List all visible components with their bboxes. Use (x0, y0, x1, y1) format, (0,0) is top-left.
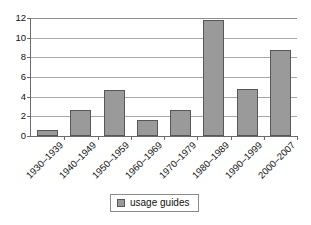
bar (237, 89, 258, 136)
plot-area: 024681012 (30, 18, 297, 137)
y-tick-mark (27, 136, 31, 137)
bar (37, 130, 58, 136)
y-tick-label: 2 (21, 112, 26, 122)
y-tick-label: 6 (21, 72, 26, 82)
x-axis-labels: 1930–19391940–19491950–19591960–19691970… (30, 140, 296, 188)
bar (137, 120, 158, 136)
bar (104, 90, 125, 136)
legend-label-usage-guides: usage guides (130, 198, 190, 208)
y-tick-label: 0 (21, 131, 26, 141)
bar (270, 50, 291, 136)
bar (203, 20, 224, 136)
legend-swatch-usage-guides (117, 199, 125, 207)
y-tick-label: 10 (15, 33, 26, 43)
bar (70, 110, 91, 136)
bar-chart: 024681012 1930–19391940–19491950–1959196… (0, 0, 311, 225)
legend: usage guides (110, 194, 199, 212)
x-tick-mark (297, 136, 298, 140)
y-tick-label: 4 (21, 92, 26, 102)
y-tick-label: 8 (21, 53, 26, 63)
y-tick-label: 12 (15, 13, 26, 23)
bars-group (31, 18, 297, 136)
bar (170, 110, 191, 136)
